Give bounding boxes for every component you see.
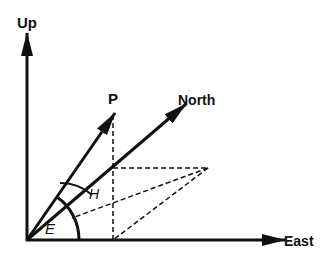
north-label: North: [178, 92, 215, 108]
p-label: P: [108, 90, 118, 107]
projection-lines: [72, 115, 208, 240]
point-to-east-line: [113, 168, 208, 240]
up-label: Up: [17, 14, 37, 31]
h-angle-label: H: [89, 186, 100, 202]
east-label: East: [284, 233, 314, 249]
e-angle-label: E: [45, 220, 56, 237]
coordinate-diagram: Up East North P E H: [0, 0, 329, 258]
